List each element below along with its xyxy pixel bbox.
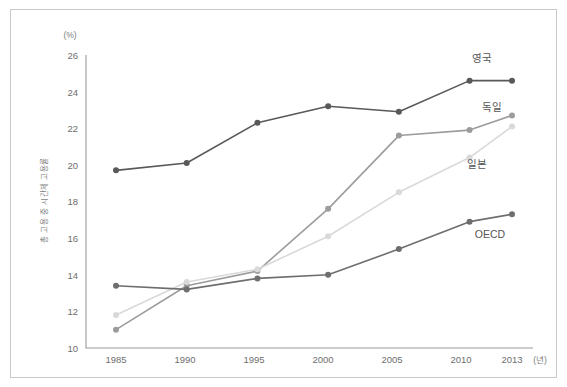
x-tick-label-2005: 2005	[381, 354, 402, 365]
data-point	[184, 160, 190, 166]
data-point	[396, 133, 402, 139]
data-point	[396, 109, 402, 115]
data-point	[254, 120, 260, 126]
data-point	[396, 189, 402, 195]
y-tick-label-24: 24	[67, 87, 78, 98]
y-tick-label-12: 12	[67, 306, 78, 317]
y-tick-label-20: 20	[67, 160, 78, 171]
x-axis-unit-label: (년)	[533, 355, 547, 365]
data-point	[396, 246, 402, 252]
data-point	[467, 219, 473, 225]
line-chart: (%) 26 24 22 20 18 16 14 12 10 총 고용 중 시간…	[0, 0, 567, 387]
data-point	[509, 123, 515, 129]
x-tick-label-2000: 2000	[312, 354, 333, 365]
data-point	[325, 206, 331, 212]
y-tick-label-14: 14	[67, 270, 78, 281]
series-label-germany: 독일	[482, 101, 502, 113]
data-point	[509, 78, 515, 84]
data-point	[113, 327, 119, 333]
data-point	[254, 266, 260, 272]
x-tick-label-2010: 2010	[450, 354, 471, 365]
x-tick-label-1995: 1995	[243, 354, 264, 365]
data-point	[509, 112, 515, 118]
x-tick-label-1990: 1990	[174, 354, 195, 365]
data-point	[509, 211, 515, 217]
data-point	[254, 275, 260, 281]
data-point	[113, 283, 119, 289]
y-tick-label-16: 16	[67, 233, 78, 244]
series-line-OECD	[116, 214, 512, 289]
series-label-japan: 일본	[467, 158, 487, 170]
data-point	[467, 78, 473, 84]
y-axis-title: 총 고용 중 시간제 고용률	[39, 157, 49, 242]
series-layer	[113, 78, 515, 333]
y-axis-unit-label: (%)	[63, 30, 76, 40]
series-line-독일	[116, 115, 512, 329]
x-tick-label-2013: 2013	[501, 354, 522, 365]
data-point	[184, 286, 190, 292]
y-tick-label-10: 10	[67, 343, 78, 354]
data-point	[467, 127, 473, 133]
data-point	[325, 233, 331, 239]
y-tick-label-22: 22	[67, 123, 78, 134]
x-tick-label-1985: 1985	[105, 354, 126, 365]
series-line-영국	[116, 81, 512, 171]
data-point	[325, 103, 331, 109]
data-point	[325, 272, 331, 278]
y-tick-label-26: 26	[67, 50, 78, 61]
axis-lines	[86, 55, 533, 348]
y-tick-label-18: 18	[67, 196, 78, 207]
series-label-oecd: OECD	[475, 228, 506, 240]
chart-screenshot: (%) 26 24 22 20 18 16 14 12 10 총 고용 중 시간…	[0, 0, 567, 387]
data-point	[113, 167, 119, 173]
data-point	[113, 312, 119, 318]
series-label-uk: 영국	[472, 52, 492, 64]
data-point	[184, 279, 190, 285]
